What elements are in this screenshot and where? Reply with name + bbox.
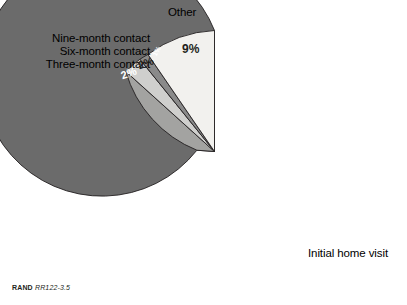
leader-line-initial-home-visit [292,239,306,251]
slice-value-initial-home-visit: 86% [245,174,269,188]
footer-organization: RAND [12,284,33,291]
slice-label-six-month-contact: Six-month contact [0,45,150,58]
slice-label-initial-home-visit: Initial home visit [308,247,388,260]
figure-footer: RAND RR122-3.5 [12,284,70,291]
slice-label-nine-month-contact: Nine-month contact [0,32,150,45]
slice-label-other: Other [168,6,196,19]
footer-figure-id: RR122-3.5 [35,284,70,291]
chart-page: Other Nine-month contact Six-month conta… [0,0,407,305]
slice-value-other: 9% [182,42,199,56]
pie-chart-figure: Other Nine-month contact Six-month conta… [0,0,407,305]
slice-label-group-left: Nine-month contact Six-month contact Thr… [0,32,150,71]
